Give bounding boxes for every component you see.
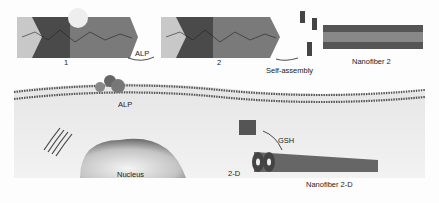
label-nanofiber-2: Nanofiber 2 [352, 57, 391, 66]
molecule-2 [161, 17, 280, 58]
label-compound-1: 1 [64, 58, 68, 67]
label-compound-2: 2 [217, 58, 221, 67]
diagram-root: 1 ALP 2 Self-assembly Nanofiber 2 ALP Nu… [0, 0, 439, 203]
label-alp-arrow: ALP [135, 49, 149, 58]
label-self-assembly: Self-assembly [266, 66, 313, 75]
label-compound-2d: 2-D [228, 169, 240, 178]
arrow-self-assembly [276, 58, 298, 60]
nanofiber-2 [300, 11, 423, 56]
label-nanofiber-2d: Nanofiber 2-D [306, 180, 353, 189]
molecule-1 [17, 8, 138, 58]
label-nucleus: Nucleus [117, 170, 144, 179]
diagram-canvas [0, 0, 439, 203]
label-gsh: GSH [278, 136, 294, 145]
compound-2d-stack [239, 120, 256, 135]
label-alp-enzyme: ALP [118, 100, 132, 109]
